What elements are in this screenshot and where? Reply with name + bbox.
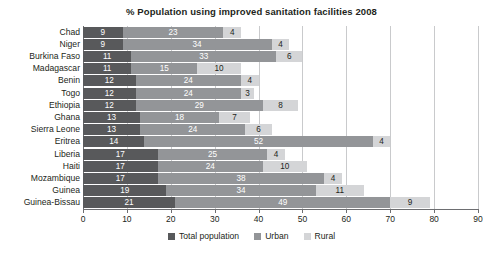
bar-value-label: 4 (241, 75, 259, 86)
bar-value-label: 14 (83, 136, 144, 147)
bar-value-label: 3 (241, 88, 254, 99)
bar-value-label: 4 (267, 149, 285, 160)
bar-value-label: 9 (83, 27, 123, 38)
bar-row: Burkina Faso11336 (83, 51, 478, 62)
bar-value-label: 8 (263, 100, 298, 111)
bar-row: Guinea-Bissau21499 (83, 197, 478, 208)
bar-value-label: 15 (131, 63, 197, 74)
bar-value-label: 17 (83, 161, 158, 172)
x-tick-label: 50 (298, 214, 307, 224)
bar-value-label: 6 (276, 51, 302, 62)
gridline (478, 26, 479, 209)
bar-value-label: 21 (83, 197, 175, 208)
x-tick (302, 209, 303, 213)
category-label: Guinea-Bissau (0, 197, 80, 208)
x-tick-label: 40 (254, 214, 263, 224)
legend-label: Urban (265, 231, 288, 241)
legend-item[interactable]: Rural (304, 231, 336, 241)
category-label: Guinea (0, 185, 80, 196)
x-tick (83, 209, 84, 213)
legend-swatch-icon (304, 233, 311, 240)
bar-value-label: 38 (158, 173, 325, 184)
bar-row: Madagascar111510 (83, 63, 478, 74)
bar-row: Eritrea14524 (83, 136, 478, 147)
bar-row: Haiti172410 (83, 161, 478, 172)
category-label: Niger (0, 39, 80, 50)
bar-value-label: 49 (175, 197, 390, 208)
category-label: Ghana (0, 112, 80, 123)
bar-value-label: 13 (83, 112, 140, 123)
bar-value-label: 24 (136, 75, 241, 86)
bar-value-label: 12 (83, 100, 136, 111)
legend-item[interactable]: Total population (168, 231, 239, 241)
bar-value-label: 12 (83, 75, 136, 86)
category-label: Mozambique (0, 173, 80, 184)
bar-value-label: 11 (83, 63, 131, 74)
bar-value-label: 52 (144, 136, 372, 147)
x-tick-label: 20 (166, 214, 175, 224)
plot-area: Chad9234Niger9344Burkina Faso11336Madaga… (83, 26, 478, 209)
chart-legend: Total populationUrbanRural (0, 231, 503, 241)
chart-container: % Population using improved sanitation f… (0, 0, 503, 256)
category-label: Madagascar (0, 63, 80, 74)
bar-row: Ethiopia12298 (83, 100, 478, 111)
category-label: Eritrea (0, 136, 80, 147)
bar-value-label: 24 (136, 88, 241, 99)
legend-item[interactable]: Urban (254, 231, 288, 241)
x-tick-label: 70 (385, 214, 394, 224)
bar-value-label: 4 (272, 39, 290, 50)
bar-row: Togo12243 (83, 88, 478, 99)
bar-value-label: 17 (83, 149, 158, 160)
bar-value-label: 25 (158, 149, 268, 160)
bar-row: Liberia17254 (83, 149, 478, 160)
bar-row: Ghana13187 (83, 112, 478, 123)
bar-value-label: 11 (83, 51, 131, 62)
bar-value-label: 10 (263, 161, 307, 172)
category-label: Haiti (0, 161, 80, 172)
bar-row: Sierra Leone13246 (83, 124, 478, 135)
bar-value-label: 18 (140, 112, 219, 123)
bar-value-label: 24 (140, 124, 245, 135)
bar-value-label: 4 (324, 173, 342, 184)
x-tick (171, 209, 172, 213)
bar-value-label: 24 (158, 161, 263, 172)
bar-value-label: 9 (83, 39, 123, 50)
x-tick (390, 209, 391, 213)
bar-value-label: 11 (316, 185, 364, 196)
legend-label: Rural (315, 231, 336, 241)
bar-value-label: 4 (223, 27, 241, 38)
x-axis-line (83, 209, 479, 210)
bar-value-label: 23 (123, 27, 224, 38)
category-label: Benin (0, 75, 80, 86)
x-tick-label: 10 (122, 214, 131, 224)
x-tick-label: 90 (473, 214, 482, 224)
legend-swatch-icon (254, 233, 261, 240)
bar-row: Guinea193411 (83, 185, 478, 196)
category-label: Chad (0, 27, 80, 38)
x-tick-label: 80 (429, 214, 438, 224)
legend-swatch-icon (168, 233, 175, 240)
bar-value-label: 34 (166, 185, 315, 196)
bar-value-label: 4 (373, 136, 391, 147)
x-tick-label: 60 (342, 214, 351, 224)
x-tick (215, 209, 216, 213)
chart-title: % Population using improved sanitation f… (0, 6, 503, 17)
bar-row: Benin12244 (83, 75, 478, 86)
category-label: Burkina Faso (0, 51, 80, 62)
x-tick-label: 0 (81, 214, 86, 224)
category-label: Togo (0, 88, 80, 99)
bar-value-label: 29 (136, 100, 263, 111)
legend-label: Total population (179, 231, 239, 241)
category-label: Ethiopia (0, 100, 80, 111)
bar-value-label: 33 (131, 51, 276, 62)
x-tick (434, 209, 435, 213)
bar-value-label: 17 (83, 173, 158, 184)
bar-row: Mozambique17384 (83, 173, 478, 184)
bar-value-label: 12 (83, 88, 136, 99)
x-tick (478, 209, 479, 213)
bar-value-label: 19 (83, 185, 166, 196)
category-label: Sierra Leone (0, 124, 80, 135)
bar-value-label: 7 (219, 112, 250, 123)
bar-value-label: 34 (123, 39, 272, 50)
x-tick-label: 30 (210, 214, 219, 224)
